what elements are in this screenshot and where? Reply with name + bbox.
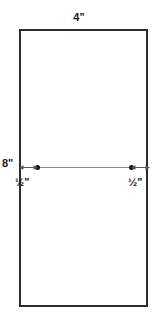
- width-dimension-label: 4": [0, 12, 158, 23]
- left-offset-arrow: [19, 163, 38, 172]
- right-offset-label: ½": [128, 177, 142, 188]
- left-offset-label: ½": [15, 177, 29, 188]
- drawing-canvas: 4" 8" ½" ½": [0, 0, 158, 321]
- right-offset-arrow-icon: [131, 163, 150, 172]
- height-dimension-label: 8": [2, 158, 13, 169]
- left-offset-arrow-icon: [19, 163, 38, 172]
- right-offset-arrow: [131, 163, 150, 172]
